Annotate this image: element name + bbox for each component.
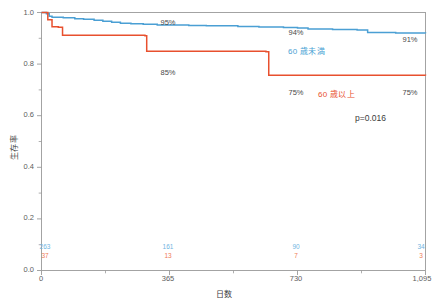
- annotation-blue-730: 94%: [276, 28, 316, 37]
- risk-count-blue-730: 90: [279, 243, 313, 250]
- annotation-blue-1095: 91%: [390, 35, 430, 44]
- risk-count-blue-365: 161: [151, 243, 185, 250]
- p-value-annotation: p=0.016: [355, 113, 386, 123]
- y-axis-title: 生存率: [8, 135, 19, 161]
- risk-count-red-1095: 3: [404, 252, 438, 259]
- ytick-label-1.0: 1.0: [8, 8, 34, 17]
- kaplan-meier-chart: 0.0 0.2 0.4 0.6 0.8 1.0 生存率 0 365 730 1,…: [0, 0, 442, 300]
- xtick-label-365: 365: [143, 274, 193, 283]
- annotation-red-730: 75%: [276, 88, 316, 97]
- survival-curve-over-60: [42, 13, 426, 76]
- legend-label-over-60: 60 歳以上: [318, 88, 355, 99]
- risk-count-red-730: 7: [279, 252, 313, 259]
- ytick-label-0.4: 0.4: [8, 162, 34, 171]
- risk-count-red-0: 37: [28, 252, 62, 259]
- annotation-blue-365: 95%: [148, 18, 188, 27]
- x-axis-title: 日数: [216, 288, 232, 299]
- ytick-label-0.6: 0.6: [8, 110, 34, 119]
- survival-curve-under-60: [42, 13, 426, 34]
- xtick-label-730: 730: [271, 274, 321, 283]
- plot-area: [0, 0, 442, 300]
- ytick-label-0.0: 0.0: [8, 265, 34, 274]
- xtick-label-1095: 1,095: [397, 274, 442, 283]
- annotation-red-1095: 75%: [390, 88, 430, 97]
- risk-count-red-365: 13: [151, 252, 185, 259]
- ytick-label-0.8: 0.8: [8, 59, 34, 68]
- xtick-label-0: 0: [16, 274, 66, 283]
- risk-count-blue-0: 263: [28, 243, 62, 250]
- legend-label-under-60: 60 歳未満: [288, 45, 325, 56]
- annotation-red-365: 85%: [148, 68, 188, 77]
- risk-count-blue-1095: 34: [404, 243, 438, 250]
- ytick-label-0.2: 0.2: [8, 213, 34, 222]
